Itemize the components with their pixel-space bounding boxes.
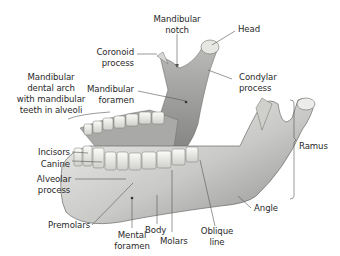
label-premolars: Premolars: [48, 220, 90, 231]
label-molars: Molars: [160, 236, 188, 247]
label-alveolar-process: Alveolar process: [34, 174, 74, 196]
label-canine: Canine: [20, 159, 70, 170]
label-incisors: Incisors: [20, 147, 70, 158]
label-mandibular-notch: Mandibular notch: [148, 14, 206, 36]
label-oblique-line: Oblique line: [199, 226, 235, 248]
label-mandibular-foramen: Mandibular foramen: [86, 84, 134, 106]
label-mandibular-dental-arch: Mandibular dental arch with mandibular t…: [14, 72, 88, 116]
label-coronoid-process: Coronoid process: [90, 47, 134, 69]
mandible-illustration: [0, 0, 340, 256]
mandible-diagram: Mandibular notch Head Coronoid process C…: [0, 0, 340, 256]
label-ramus: Ramus: [299, 141, 328, 152]
label-condylar-process: Condylar process: [239, 72, 277, 94]
label-head: Head: [238, 24, 260, 35]
label-body: Body: [145, 225, 166, 236]
label-angle: Angle: [254, 203, 278, 214]
